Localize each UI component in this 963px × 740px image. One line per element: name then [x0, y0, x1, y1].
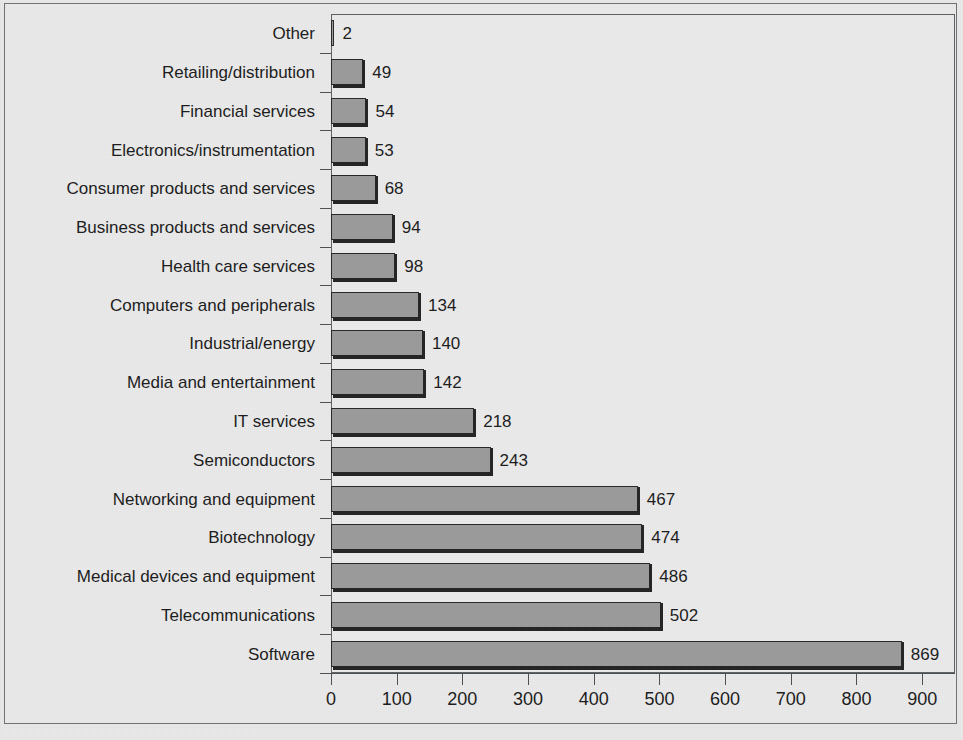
y-axis-tick	[320, 479, 331, 480]
bar-fill	[331, 641, 902, 667]
x-axis-tick-label: 700	[776, 690, 806, 708]
bar-fill	[331, 447, 491, 473]
bar	[331, 486, 638, 512]
bar	[331, 408, 474, 434]
y-axis-tick	[320, 363, 331, 364]
bar-fill	[331, 524, 642, 550]
bar-row: Computers and peripherals134	[331, 285, 955, 324]
bar-value-label: 486	[659, 568, 687, 585]
bar-value-label: 140	[432, 335, 460, 352]
bar	[331, 98, 366, 124]
category-label: Business products and services	[76, 219, 315, 236]
x-axis-tick	[725, 674, 726, 685]
bar-value-label: 68	[385, 180, 404, 197]
bar-row: Software869	[331, 634, 955, 673]
y-axis-tick	[320, 518, 331, 519]
bar-row: IT services218	[331, 402, 955, 441]
category-label: Software	[248, 646, 315, 663]
bar-row: Retailing/distribution49	[331, 53, 955, 92]
y-axis-tick	[320, 285, 331, 286]
bar-fill	[331, 563, 650, 589]
bar-row: Other2	[331, 14, 955, 53]
bar-fill	[331, 486, 638, 512]
bar-value-label: 502	[670, 607, 698, 624]
category-label: Other	[272, 25, 315, 42]
category-label: Computers and peripherals	[110, 297, 315, 314]
bar	[331, 137, 366, 163]
x-axis-tick-label: 600	[710, 690, 740, 708]
x-axis-tick	[462, 674, 463, 685]
bar-fill	[331, 214, 393, 240]
bar	[331, 214, 393, 240]
bar-row: Semiconductors243	[331, 440, 955, 479]
x-axis-tick	[594, 674, 595, 685]
bar-row: Telecommunications502	[331, 595, 955, 634]
y-axis-tick	[320, 673, 331, 674]
category-label: Semiconductors	[193, 452, 315, 469]
y-axis-tick	[320, 247, 331, 248]
bar	[331, 20, 334, 46]
bar-fill	[331, 175, 376, 201]
bar	[331, 447, 491, 473]
bar-value-label: 218	[483, 413, 511, 430]
y-axis-tick	[320, 402, 331, 403]
x-axis-tick-label: 800	[841, 690, 871, 708]
category-label: Electronics/instrumentation	[111, 142, 315, 159]
bar-row: Medical devices and equipment486	[331, 557, 955, 596]
x-axis-tick-label: 0	[326, 690, 336, 708]
category-label: Financial services	[180, 103, 315, 120]
bar	[331, 369, 424, 395]
category-label: Health care services	[161, 258, 315, 275]
bar-row: Industrial/energy140	[331, 324, 955, 363]
bar-row: Consumer products and services68	[331, 169, 955, 208]
bar-value-label: 142	[433, 374, 461, 391]
bar	[331, 175, 376, 201]
bar	[331, 602, 661, 628]
bar	[331, 563, 650, 589]
x-axis-tick	[659, 674, 660, 685]
y-axis-tick	[320, 92, 331, 93]
y-axis-tick	[320, 130, 331, 131]
y-axis-tick	[320, 557, 331, 558]
bar-value-label: 53	[375, 142, 394, 159]
bar-rows-container: Other2Retailing/distribution49Financial …	[331, 14, 955, 673]
y-axis-tick	[320, 634, 331, 635]
y-axis-tick	[320, 440, 331, 441]
category-label: IT services	[233, 413, 315, 430]
x-axis-tick	[528, 674, 529, 685]
bar-value-label: 474	[651, 529, 679, 546]
bar-fill	[331, 330, 423, 356]
bar-fill	[331, 408, 474, 434]
bar	[331, 292, 419, 318]
x-axis-tick	[856, 674, 857, 685]
bar-value-label: 467	[647, 491, 675, 508]
bar-fill	[331, 59, 363, 85]
bar-fill	[331, 253, 395, 279]
bar-row: Biotechnology474	[331, 518, 955, 557]
bar-value-label: 49	[372, 64, 391, 81]
x-axis-tick-label: 100	[382, 690, 412, 708]
bar-fill	[331, 98, 366, 124]
bar	[331, 330, 423, 356]
bar-fill	[331, 137, 366, 163]
bar-row: Media and entertainment142	[331, 363, 955, 402]
bar-row: Networking and equipment467	[331, 479, 955, 518]
bar-value-label: 869	[911, 646, 939, 663]
category-label: Retailing/distribution	[162, 64, 315, 81]
x-axis-tick-label: 900	[907, 690, 937, 708]
bar	[331, 59, 363, 85]
bar-fill	[331, 369, 424, 395]
category-label: Medical devices and equipment	[77, 568, 315, 585]
y-axis-tick	[320, 324, 331, 325]
bar-fill	[331, 292, 419, 318]
y-axis-tick	[320, 595, 331, 596]
x-axis-tick-label: 300	[513, 690, 543, 708]
x-axis-tick	[791, 674, 792, 685]
x-axis-tick	[922, 674, 923, 685]
x-axis-tick	[331, 674, 332, 685]
y-axis-tick	[320, 53, 331, 54]
category-label: Consumer products and services	[66, 180, 315, 197]
y-axis-tick	[320, 169, 331, 170]
bar-row: Health care services98	[331, 247, 955, 286]
bar-value-label: 2	[343, 25, 352, 42]
